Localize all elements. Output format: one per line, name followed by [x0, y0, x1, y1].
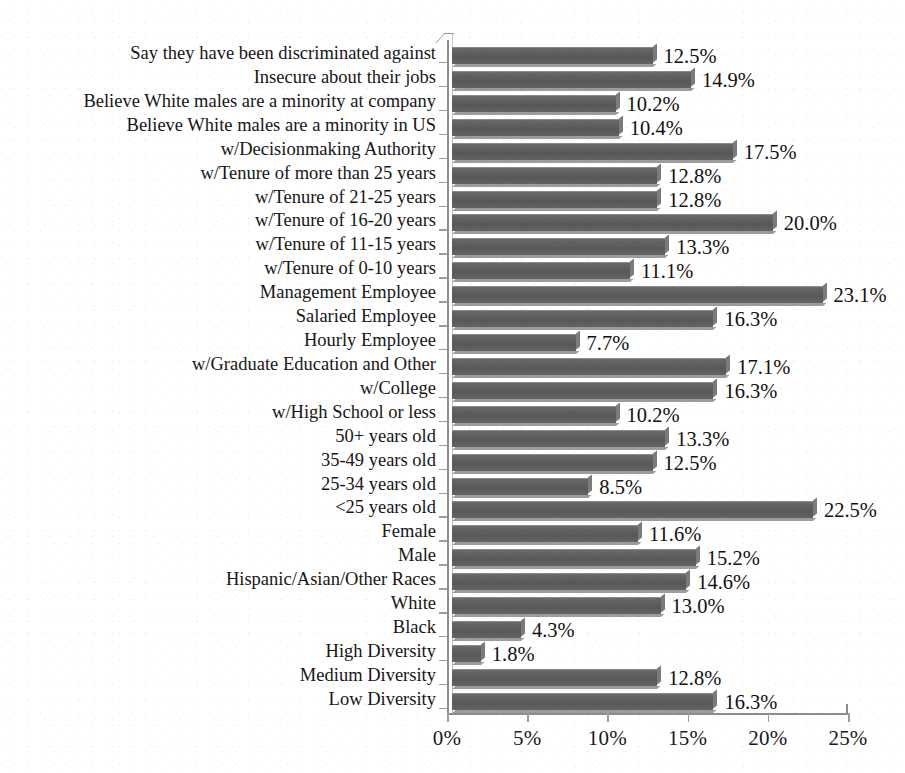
- bar-value-label: 4.3%: [532, 619, 575, 641]
- bar-row: Hourly Employee7.7%: [0, 330, 905, 354]
- category-label: w/Tenure of 21-25 years: [255, 188, 436, 207]
- y-axis-tick: [439, 397, 447, 398]
- bar: [452, 669, 657, 686]
- category-label: w/Decisionmaking Authority: [221, 140, 436, 159]
- bar-value-label: 22.5%: [824, 499, 877, 521]
- bar-row: Insecure about their jobs14.9%: [0, 67, 905, 91]
- bar: [452, 621, 521, 638]
- bar: [452, 430, 665, 447]
- category-label: Hispanic/Asian/Other Races: [226, 570, 436, 589]
- y-axis-tick: [439, 349, 447, 350]
- bar: [452, 191, 657, 208]
- bar-row: Medium Diversity12.8%: [0, 665, 905, 689]
- bar: [452, 597, 661, 614]
- bar-row: w/High School or less10.2%: [0, 402, 905, 426]
- bar: [452, 525, 638, 542]
- bar-value-label: 11.6%: [649, 523, 701, 545]
- y-axis-tick: [439, 564, 447, 565]
- x-axis-line: [447, 713, 848, 715]
- bar-value-label: 16.3%: [724, 380, 777, 402]
- category-label: 50+ years old: [335, 427, 436, 446]
- x-axis-tick: [768, 713, 770, 722]
- bar-value-label: 12.5%: [664, 452, 717, 474]
- bar: [452, 693, 713, 710]
- y-axis-tick: [439, 421, 447, 422]
- category-label: Medium Diversity: [300, 666, 436, 685]
- x-axis-tick: [688, 713, 690, 722]
- bar-value-label: 12.8%: [668, 165, 721, 187]
- bar: [452, 262, 630, 279]
- bar: [452, 549, 696, 566]
- x-axis-tick-label: 10%: [588, 726, 627, 751]
- category-label: w/Tenure of 16-20 years: [255, 211, 436, 230]
- bar-value-label: 14.6%: [697, 571, 750, 593]
- category-label: Insecure about their jobs: [254, 68, 436, 87]
- bar-row: w/Tenure of 21-25 years12.8%: [0, 187, 905, 211]
- y-axis-tick: [439, 588, 447, 589]
- bar-value-label: 23.1%: [834, 284, 887, 306]
- bar-value-label: 8.5%: [599, 476, 642, 498]
- bar-value-label: 14.9%: [702, 69, 755, 91]
- bar-row: Black4.3%: [0, 617, 905, 641]
- bar-value-label: 15.2%: [707, 547, 760, 569]
- bar: [452, 406, 616, 423]
- category-label: Salaried Employee: [296, 307, 436, 326]
- y-axis-tick: [439, 229, 447, 230]
- category-label: Low Diversity: [329, 690, 436, 709]
- y-axis-tick: [439, 158, 447, 159]
- bar: [452, 454, 653, 471]
- horizontal-bar-chart: Say they have been discriminated against…: [0, 0, 905, 773]
- y-axis-tick: [439, 612, 447, 613]
- x-axis-tick-label: 15%: [668, 726, 707, 751]
- y-axis-tick: [439, 301, 447, 302]
- bar-value-label: 12.8%: [668, 667, 721, 689]
- category-label: White: [391, 594, 436, 613]
- category-label: w/Tenure of 0-10 years: [264, 259, 436, 278]
- y-axis-tick: [439, 636, 447, 637]
- x-axis-tick-label: 25%: [828, 726, 867, 751]
- bar-value-label: 12.5%: [664, 45, 717, 67]
- bar: [452, 501, 813, 518]
- bar-row: w/Graduate Education and Other17.1%: [0, 354, 905, 378]
- y-axis-tick: [439, 277, 447, 278]
- bar-value-label: 20.0%: [784, 212, 837, 234]
- bar: [452, 358, 726, 375]
- bar-row: w/Tenure of 16-20 years20.0%: [0, 210, 905, 234]
- y-axis-tick: [439, 445, 447, 446]
- category-label: Say they have been discriminated against: [130, 44, 436, 63]
- bar-value-label: 13.0%: [672, 595, 725, 617]
- bar-value-label: 17.5%: [744, 141, 797, 163]
- category-label: 25-34 years old: [321, 475, 436, 494]
- y-axis-tick: [439, 86, 447, 87]
- y-axis-tick: [439, 660, 447, 661]
- bar: [452, 47, 653, 64]
- y-axis-tick: [439, 373, 447, 374]
- category-label: Black: [393, 618, 436, 637]
- category-label: w/Tenure of 11-15 years: [256, 235, 436, 254]
- y-axis-tick: [439, 469, 447, 470]
- x-axis-tick: [527, 713, 529, 722]
- category-label: w/Graduate Education and Other: [192, 355, 436, 374]
- category-label: 35-49 years old: [321, 451, 436, 470]
- bar-row: w/Decisionmaking Authority17.5%: [0, 139, 905, 163]
- bar-value-label: 7.7%: [587, 332, 630, 354]
- bar-value-label: 12.8%: [668, 189, 721, 211]
- category-label: Male: [398, 546, 436, 565]
- bar: [452, 573, 686, 590]
- category-label: w/High School or less: [272, 403, 436, 422]
- bar-value-label: 16.3%: [724, 308, 777, 330]
- bar-row: w/Tenure of 0-10 years11.1%: [0, 258, 905, 282]
- bar-row: Female11.6%: [0, 521, 905, 545]
- bar-row: 50+ years old13.3%: [0, 426, 905, 450]
- bar-row: 25-34 years old8.5%: [0, 474, 905, 498]
- bar-row: Believe White males are a minority in US…: [0, 115, 905, 139]
- bar-value-label: 17.1%: [737, 356, 790, 378]
- y-axis-tick: [439, 182, 447, 183]
- bar-row: w/Tenure of 11-15 years13.3%: [0, 234, 905, 258]
- category-label: w/College: [360, 379, 436, 398]
- bar: [452, 310, 713, 327]
- bar-row: Salaried Employee16.3%: [0, 306, 905, 330]
- y-axis-tick: [439, 253, 447, 254]
- x-axis-tick: [607, 713, 609, 722]
- bar: [452, 167, 657, 184]
